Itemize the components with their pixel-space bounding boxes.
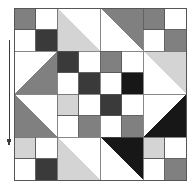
block-r0c1 (57, 8, 100, 51)
block-r3c0 (14, 137, 57, 180)
block-r3c3-patch-2 (143, 159, 165, 181)
block-r0c0-patch-3 (36, 30, 58, 52)
block-r1c1 (57, 51, 100, 94)
block-r1c2-patch-0 (100, 51, 122, 73)
block-r3c0-patch-3 (36, 159, 58, 181)
block-r0c0-patch-0 (14, 8, 36, 30)
block-r2c2-patch-2 (100, 116, 122, 138)
block-r1c2 (100, 51, 143, 94)
block-r3c3-patch-1 (165, 137, 187, 159)
block-r3c3-patch-3 (165, 159, 187, 181)
block-r0c3-patch-1 (165, 8, 187, 30)
block-r1c2-patch-3 (122, 73, 144, 95)
block-r0c3-patch-2 (143, 30, 165, 52)
block-r2c1-patch-2 (57, 116, 79, 138)
block-r2c1-patch-3 (79, 116, 101, 138)
block-r0c3 (143, 8, 186, 51)
block-r2c1-patch-1 (79, 94, 101, 116)
quilt-diagram (0, 0, 190, 191)
block-r1c2-patch-1 (122, 51, 144, 73)
block-r1c1-patch-1 (79, 51, 101, 73)
block-r0c3-patch-3 (165, 30, 187, 52)
quilt-blocks-layer (14, 8, 186, 180)
block-r3c0-patch-0 (14, 137, 36, 159)
block-r1c3 (143, 51, 186, 94)
block-r0c0 (14, 8, 57, 51)
block-r3c1 (57, 137, 100, 180)
block-r3c0-patch-2 (14, 159, 36, 181)
figure-root (0, 0, 190, 191)
block-r1c1-patch-0 (57, 51, 79, 73)
block-r2c0 (14, 94, 57, 137)
block-r1c1-patch-2 (57, 73, 79, 95)
block-r2c2-patch-3 (122, 116, 144, 138)
block-r0c3-patch-0 (143, 8, 165, 30)
block-r0c2 (100, 8, 143, 51)
block-r0c0-patch-2 (14, 30, 36, 52)
block-r3c3 (143, 137, 186, 180)
block-r2c2-patch-1 (122, 94, 144, 116)
block-r1c2-patch-2 (100, 73, 122, 95)
block-r2c2-patch-0 (100, 94, 122, 116)
block-r2c1-patch-0 (57, 94, 79, 116)
block-r1c1-patch-3 (79, 73, 101, 95)
block-r2c2 (100, 94, 143, 137)
block-r2c1 (57, 94, 100, 137)
block-r3c2 (100, 137, 143, 180)
block-r0c0-patch-1 (36, 8, 58, 30)
block-r2c3 (143, 94, 186, 137)
block-r1c0 (14, 51, 57, 94)
block-r3c0-patch-1 (36, 137, 58, 159)
block-r3c3-patch-0 (143, 137, 165, 159)
